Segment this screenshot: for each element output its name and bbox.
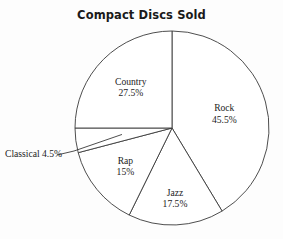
slice-label-rap-name: Rap xyxy=(117,155,135,166)
slice-label-classical: Classical 4.5% xyxy=(0,148,62,159)
slice-label-jazz-percent: 17.5% xyxy=(163,198,188,209)
pie-chart-canvas xyxy=(0,0,283,239)
slice-label-rap: Rap 15% xyxy=(117,155,135,178)
pie-chart: Compact Discs Sold Rock 45.5% Jazz 17.5%… xyxy=(0,0,283,239)
slice-label-jazz: Jazz 17.5% xyxy=(163,186,188,209)
slice-label-rap-percent: 15% xyxy=(117,166,135,177)
slice-label-country-name: Country xyxy=(115,75,146,86)
slice-label-rock-name: Rock xyxy=(212,102,237,113)
slice-label-country: Country 27.5% xyxy=(115,75,146,98)
slice-label-rock-percent: 45.5% xyxy=(212,113,237,124)
slice-label-classical-name: Classical 4.5% xyxy=(5,148,62,159)
slice-label-rock: Rock 45.5% xyxy=(212,102,237,125)
slice-label-jazz-name: Jazz xyxy=(163,186,188,197)
slice-label-country-percent: 27.5% xyxy=(115,87,146,98)
